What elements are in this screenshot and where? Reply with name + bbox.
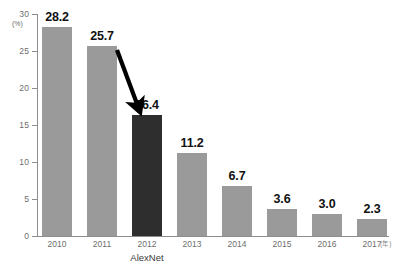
x-tick-label-2010: 2010 [33, 240, 81, 249]
x-tick-label-2016: 2016 [303, 240, 351, 249]
bar-2011 [87, 46, 117, 236]
bar-value-label-2010: 28.2 [30, 11, 84, 24]
x-tick-label-2014: 2014 [213, 240, 261, 249]
bar-2016 [312, 214, 342, 236]
x-tick-label-2011: 2011 [78, 240, 126, 249]
x-tick-label-2012: 2012 [123, 240, 171, 249]
bar-chart: (%) 051015202530 28.2201025.7201116.4201… [0, 0, 410, 271]
y-axis-line [37, 14, 38, 237]
x-axis-unit-label: (年) [380, 241, 391, 248]
bar-2013 [177, 153, 207, 236]
bar-value-label-2013: 11.2 [165, 137, 219, 150]
y-tick-label: 0 [0, 232, 29, 241]
bar-2012 [132, 115, 162, 236]
y-tick-mark [32, 88, 37, 89]
y-tick-label: 5 [0, 195, 29, 204]
y-tick-mark [32, 162, 37, 163]
y-tick-label: 25 [0, 47, 29, 56]
y-tick-label: 30 [0, 10, 29, 19]
bar-2017 [357, 219, 387, 236]
x-tick-label-2013: 2013 [168, 240, 216, 249]
y-tick-label: 10 [0, 158, 29, 167]
x-axis-line [37, 236, 389, 237]
bar-value-label-2011: 25.7 [75, 30, 129, 43]
y-tick-mark [32, 199, 37, 200]
bar-value-label-2017: 2.3 [345, 203, 399, 216]
bar-2010 [42, 27, 72, 236]
y-tick-mark [32, 51, 37, 52]
x-tick-label-2015: 2015 [258, 240, 306, 249]
bar-2015 [267, 209, 297, 236]
y-tick-mark [32, 125, 37, 126]
bar-2014 [222, 186, 252, 236]
y-tick-label: 15 [0, 121, 29, 130]
y-tick-label: 20 [0, 84, 29, 93]
plot-area: (%) 051015202530 28.2201025.7201116.4201… [0, 0, 410, 271]
alexnet-annotation-label: AlexNet [112, 253, 182, 263]
y-axis-unit-label: (%) [12, 20, 23, 27]
bar-value-label-2012: 16.4 [120, 99, 174, 112]
y-tick-mark [32, 236, 37, 237]
bar-value-label-2014: 6.7 [210, 170, 264, 183]
